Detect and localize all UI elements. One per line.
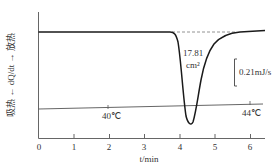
temperature-line [39,104,264,109]
peak-area-unit: cm² [186,61,200,70]
y-axis-label-text: 吸热 ← dQ/dt → 放热 [4,33,17,117]
x-ticks [74,134,251,138]
x-tick-label-2: 2 [107,143,112,152]
scale-bar-label: 0.21mJ/s [239,68,271,77]
x-tick-label-5: 5 [213,143,218,152]
x-tick-label-1: 1 [72,143,77,152]
temp-end-label: 44℃ [242,109,261,118]
x-axis-title: t/min [139,155,158,164]
y-axis-label: 吸热 ← dQ/dt → 放热 [3,10,17,140]
peak-area-value: 17.81 [183,49,203,58]
scale-bar [235,59,238,86]
x-tick-label-0: 0 [37,143,42,152]
heat-flow-curve [39,31,266,125]
x-tick-label-6: 6 [248,143,253,152]
temp-start-label: 40℃ [102,112,121,121]
x-tick-label-3: 3 [142,143,147,152]
x-tick-label-4: 4 [178,143,183,152]
